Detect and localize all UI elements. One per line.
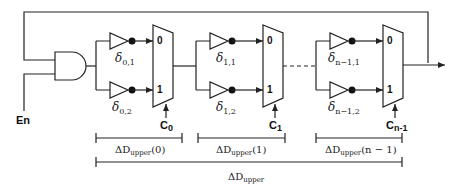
buffer-icon (330, 33, 348, 49)
enable-input-wire (24, 74, 55, 111)
total-delay-bracket (96, 157, 402, 167)
buffer-icon (110, 33, 128, 49)
ring-oscillator-diagram: En δ0,1 δ0,2 0 1 C0 δ1,1 δ1,2 0 1 C1 (0, 0, 461, 194)
control-c1-label: C1 (269, 119, 282, 133)
mux-n-1-input-1-label: 1 (387, 84, 393, 95)
mux-1-input-0-label: 0 (267, 35, 273, 46)
and-gate-icon (55, 52, 86, 80)
delay-bracket-0 (96, 133, 182, 143)
delay-label-1: ΔDupper(1) (216, 144, 266, 157)
delta-0-2-label: δ0,2 (112, 100, 132, 116)
mux-n-1-input-0-label: 0 (387, 35, 393, 46)
delta-n-1-2-label: δn−1,2 (328, 100, 360, 116)
feedback-wire (24, 12, 428, 63)
control-c0-label: C0 (160, 119, 173, 133)
delay-bracket-n-1 (316, 133, 402, 143)
mux-0-input-0-label: 0 (157, 35, 163, 46)
delta-1-1-label: δ1,1 (216, 51, 236, 67)
total-delay-label: ΔDupper (228, 171, 265, 184)
delay-bracket-1 (198, 133, 285, 143)
delay-label-n-1: ΔDupper(n − 1) (325, 144, 397, 157)
delay-label-0: ΔDupper(0) (115, 144, 165, 157)
buffer-icon (210, 82, 228, 98)
delta-1-2-label: δ1,2 (216, 100, 236, 116)
control-cn-1-label: Cn-1 (386, 119, 407, 133)
mux-icon (153, 25, 173, 107)
mux-0-input-1-label: 1 (157, 84, 163, 95)
buffer-icon (330, 82, 348, 98)
mux-icon (263, 25, 283, 107)
mux-1-input-1-label: 1 (267, 84, 273, 95)
buffer-icon (210, 33, 228, 49)
enable-label: En (16, 114, 30, 126)
mux-icon (383, 25, 403, 107)
buffer-icon (110, 82, 128, 98)
stage-n-1 (316, 25, 445, 118)
delta-0-1-label: δ0,1 (115, 51, 135, 67)
stage-1 (196, 25, 316, 118)
stage-0 (96, 25, 196, 118)
delta-n-1-1-label: δn−1,1 (328, 51, 360, 67)
